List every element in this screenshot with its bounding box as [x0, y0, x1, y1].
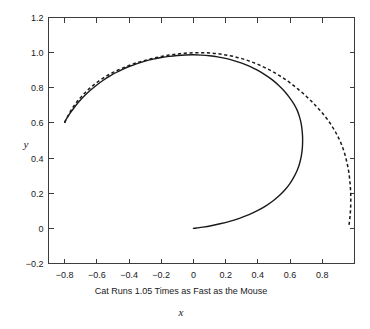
- x-tick-label: 0.6: [284, 270, 297, 280]
- y-tick-label: 0.6: [31, 118, 44, 128]
- y-tick-label: 0.8: [31, 83, 44, 93]
- cat-path-solid: [65, 55, 303, 229]
- x-tick-label: 0.4: [252, 270, 265, 280]
- y-tick-label: 0.4: [31, 154, 44, 164]
- data-series: [65, 53, 351, 229]
- chart-figure: −0.8−0.6−0.4−0.200.20.40.60.8−0.200.20.4…: [0, 0, 370, 329]
- tick-labels: −0.8−0.6−0.4−0.200.20.40.60.8−0.200.20.4…: [26, 13, 329, 280]
- pursuit-curve-chart: −0.8−0.6−0.4−0.200.20.40.60.8−0.200.20.4…: [0, 0, 370, 329]
- y-tick-label: 1.0: [31, 48, 44, 58]
- x-tick-label: −0.8: [56, 270, 74, 280]
- x-tick-label: 0.2: [219, 270, 232, 280]
- chart-caption: Cat Runs 1.05 Times as Fast as the Mouse: [95, 286, 268, 296]
- x-axis-label: x: [178, 306, 184, 318]
- y-tick-label: 1.2: [31, 13, 44, 23]
- y-tick-label: 0.2: [31, 189, 44, 199]
- y-axis-label: y: [23, 138, 29, 150]
- x-tick-label: −0.6: [88, 270, 106, 280]
- y-tick-label: 0: [38, 224, 43, 234]
- x-tick-label: −0.2: [152, 270, 170, 280]
- x-tick-label: −0.4: [120, 270, 138, 280]
- y-tick-label: −0.2: [26, 259, 44, 269]
- x-tick-label: 0: [191, 270, 196, 280]
- x-tick-label: 0.8: [316, 270, 329, 280]
- mouse-path-dashed: [65, 53, 351, 225]
